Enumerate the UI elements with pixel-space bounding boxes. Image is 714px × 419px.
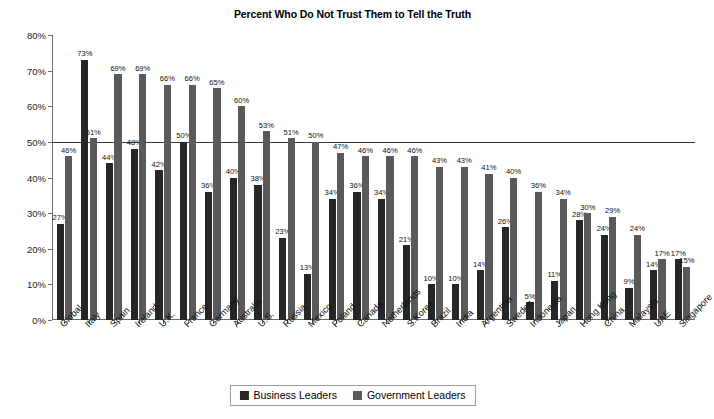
y-axis-tick-label: 40% bbox=[6, 172, 46, 183]
bar-group: 21%46% bbox=[398, 35, 423, 320]
bar-value-label: 15% bbox=[678, 257, 696, 265]
bar-government bbox=[609, 217, 616, 320]
bar-government bbox=[238, 106, 245, 320]
legend-label: Business Leaders bbox=[253, 389, 336, 401]
bar-business bbox=[155, 170, 162, 320]
bar-value-label: 46% bbox=[59, 147, 77, 155]
bar-government bbox=[164, 85, 171, 320]
bar-business bbox=[675, 259, 682, 320]
bar-government bbox=[288, 138, 295, 320]
bar-group: 14%17% bbox=[646, 35, 671, 320]
bar-group: 48%69% bbox=[126, 35, 151, 320]
bar-government bbox=[386, 156, 393, 320]
bar-government bbox=[485, 174, 492, 320]
bar-business bbox=[106, 163, 113, 320]
y-axis-tick-label: 0% bbox=[6, 315, 46, 326]
bar-government bbox=[189, 85, 196, 320]
bar-value-label: 36% bbox=[529, 182, 547, 190]
y-axis-tick-label: 80% bbox=[6, 30, 46, 41]
bar-business bbox=[57, 224, 64, 320]
bar-government bbox=[213, 88, 220, 320]
bar-value-label: 46% bbox=[381, 147, 399, 155]
bar-government bbox=[337, 153, 344, 320]
bar-value-label: 51% bbox=[282, 129, 300, 137]
bar-value-label: 50% bbox=[307, 132, 325, 140]
bar-value-label: 53% bbox=[257, 122, 275, 130]
bar-value-label: 69% bbox=[134, 65, 152, 73]
bar-business bbox=[353, 192, 360, 320]
bar-government bbox=[139, 74, 146, 320]
bar-value-label: 29% bbox=[604, 207, 622, 215]
chart-title: Percent Who Do Not Trust Them to Tell th… bbox=[0, 8, 705, 20]
bar-value-label: 43% bbox=[430, 157, 448, 165]
bar-value-label: 60% bbox=[233, 97, 251, 105]
legend-item[interactable]: Government Leaders bbox=[353, 389, 466, 401]
y-axis-tick-label: 60% bbox=[6, 101, 46, 112]
x-axis-labels: GlobalItalySpainIrelandU.K.FranceGermany… bbox=[52, 322, 695, 384]
bar-government bbox=[436, 167, 443, 320]
bar-value-label: 47% bbox=[331, 143, 349, 151]
legend-swatch-icon bbox=[239, 391, 248, 400]
bar-value-label: 46% bbox=[356, 147, 374, 155]
bar-value-label: 40% bbox=[505, 168, 523, 176]
bar-group: 42%66% bbox=[151, 35, 176, 320]
bar-value-label: 24% bbox=[628, 225, 646, 233]
bar-business bbox=[650, 270, 657, 320]
bar-value-label: 34% bbox=[554, 189, 572, 197]
bar-group: 26%40% bbox=[497, 35, 522, 320]
bar-business bbox=[131, 149, 138, 320]
bar-group: 23%51% bbox=[275, 35, 300, 320]
bar-group: 50%66% bbox=[176, 35, 201, 320]
bar-group: 40%60% bbox=[225, 35, 250, 320]
bar-group: 24%29% bbox=[596, 35, 621, 320]
bar-group: 10%43% bbox=[448, 35, 473, 320]
bar-group: 27%46% bbox=[52, 35, 77, 320]
bar-group: 34%46% bbox=[374, 35, 399, 320]
y-axis-tick-label: 20% bbox=[6, 243, 46, 254]
bar-government bbox=[65, 156, 72, 320]
bar-government bbox=[461, 167, 468, 320]
y-axis-tick-label: 10% bbox=[6, 279, 46, 290]
plot-area: 0%10%20%30%40%50%60%70%80% 27%46%73%51%4… bbox=[52, 35, 695, 320]
bar-government bbox=[114, 74, 121, 320]
bar-business bbox=[452, 284, 459, 320]
bar-business bbox=[180, 142, 187, 320]
bar-group: 34%47% bbox=[324, 35, 349, 320]
bar-value-label: 30% bbox=[579, 204, 597, 212]
y-axis-tick-label: 30% bbox=[6, 208, 46, 219]
bar-value-label: 66% bbox=[158, 75, 176, 83]
bar-group: 28%30% bbox=[571, 35, 596, 320]
bar-value-label: 73% bbox=[76, 50, 94, 58]
legend-item[interactable]: Business Leaders bbox=[239, 389, 336, 401]
bar-government bbox=[90, 138, 97, 320]
bar-group: 9%24% bbox=[621, 35, 646, 320]
bar-value-label: 43% bbox=[455, 157, 473, 165]
bar-business bbox=[576, 220, 583, 320]
bar-group: 13%50% bbox=[299, 35, 324, 320]
bar-group: 38%53% bbox=[250, 35, 275, 320]
bar-business bbox=[205, 192, 212, 320]
y-axis-tick-label: 50% bbox=[6, 136, 46, 147]
bar-government bbox=[312, 142, 319, 320]
bar-business bbox=[81, 60, 88, 320]
bar-group: 14%41% bbox=[472, 35, 497, 320]
bar-government bbox=[362, 156, 369, 320]
bar-group: 11%34% bbox=[547, 35, 572, 320]
bar-business bbox=[304, 274, 311, 320]
bar-group: 36%65% bbox=[200, 35, 225, 320]
bar-group: 10%43% bbox=[423, 35, 448, 320]
bar-government bbox=[263, 131, 270, 320]
bar-group: 73%51% bbox=[77, 35, 102, 320]
bar-business bbox=[625, 288, 632, 320]
bar-value-label: 65% bbox=[208, 79, 226, 87]
bar-value-label: 41% bbox=[480, 164, 498, 172]
bar-value-label: 46% bbox=[406, 147, 424, 155]
bar-group: 44%69% bbox=[101, 35, 126, 320]
legend-label: Government Leaders bbox=[367, 389, 466, 401]
bar-value-label: 51% bbox=[84, 129, 102, 137]
bar-value-label: 69% bbox=[109, 65, 127, 73]
bar-value-label: 66% bbox=[183, 75, 201, 83]
bar-business bbox=[279, 238, 286, 320]
chart-legend: Business LeadersGovernment Leaders bbox=[229, 385, 475, 406]
